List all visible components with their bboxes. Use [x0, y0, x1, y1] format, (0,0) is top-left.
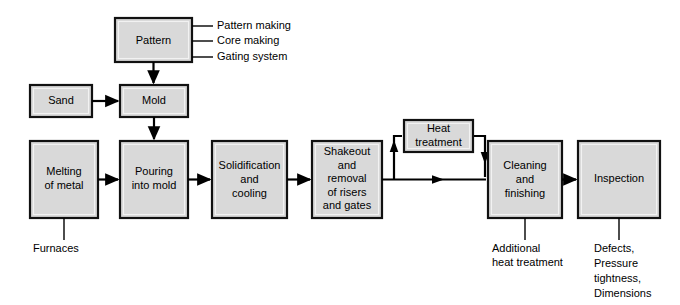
pattern-note-label-2: Core making — [217, 34, 279, 46]
node-solidification-label-line1: Solidification — [219, 159, 281, 171]
node-heat-treatment-label-line2: treatment — [415, 136, 461, 148]
pattern-note-label-3: Gating system — [217, 50, 287, 62]
casting-process-flowchart: Pattern Pattern making Core making Gatin… — [0, 0, 680, 305]
node-shakeout-label-line1: Shakeout — [324, 145, 370, 157]
node-solidification-label-line2: and — [240, 173, 258, 185]
node-shakeout-label-line4: of risers — [327, 186, 367, 198]
node-mold[interactable]: Mold — [120, 85, 188, 117]
node-cleaning-and-finishing[interactable]: Cleaning and finishing — [488, 141, 562, 218]
node-sand-label: Sand — [48, 94, 74, 106]
node-shakeout-label-line2: and — [338, 159, 356, 171]
node-pouring-into-mold[interactable]: Pouring into mold — [120, 141, 188, 218]
pattern-note-label-1: Pattern making — [217, 19, 291, 31]
inspection-note-label-3: tightness, — [594, 272, 641, 284]
node-heat-treatment[interactable]: Heat treatment — [404, 120, 473, 152]
inspection-note-label-1: Defects, — [594, 242, 634, 254]
node-cleaning-label-line2: and — [516, 173, 534, 185]
node-solidification-label-line3: cooling — [232, 187, 267, 199]
node-solidification-and-cooling[interactable]: Solidification and cooling — [212, 141, 287, 218]
node-inspection-label: Inspection — [594, 172, 644, 184]
node-pattern[interactable]: Pattern — [115, 18, 192, 62]
node-pattern-label: Pattern — [136, 34, 171, 46]
additional-heat-treatment-label-line1: Additional — [492, 242, 540, 254]
furnaces-label: Furnaces — [33, 242, 79, 254]
node-mold-label: Mold — [142, 94, 166, 106]
node-pouring-into-mold-label-line2: into mold — [132, 179, 177, 191]
inspection-note-label-2: Pressure — [594, 257, 638, 269]
node-cleaning-label-line3: finishing — [505, 187, 545, 199]
node-cleaning-label-line1: Cleaning — [503, 159, 546, 171]
node-melting-of-metal[interactable]: Melting of metal — [30, 141, 98, 218]
node-shakeout[interactable]: Shakeout and removal of risers and gates — [312, 141, 382, 218]
additional-heat-treatment-label-line2: heat treatment — [492, 256, 563, 268]
node-melting-of-metal-label-line1: Melting — [46, 165, 81, 177]
node-heat-treatment-label-line1: Heat — [427, 122, 450, 134]
node-shakeout-label-line3: removal — [327, 172, 366, 184]
inspection-note-label-4: Dimensions — [594, 287, 652, 299]
node-shakeout-label-line5: and gates — [323, 199, 372, 211]
node-pouring-into-mold-label-line1: Pouring — [135, 165, 173, 177]
node-sand[interactable]: Sand — [30, 85, 92, 117]
node-melting-of-metal-label-line2: of metal — [44, 179, 83, 191]
node-inspection[interactable]: Inspection — [578, 141, 660, 218]
